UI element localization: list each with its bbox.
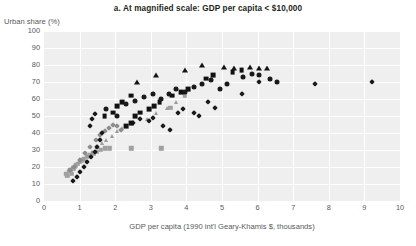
data-point-gray-triangles bbox=[174, 100, 178, 104]
data-point-black-squares bbox=[129, 120, 134, 125]
y-axis-title: Urban share (%) bbox=[4, 17, 60, 26]
gridline-vertical bbox=[80, 31, 81, 201]
data-point-gray-squares bbox=[65, 173, 69, 177]
x-tick-label: 3 bbox=[139, 204, 163, 211]
gridline-vertical bbox=[115, 31, 116, 201]
y-tick-label: 80 bbox=[0, 61, 40, 68]
data-point-gray-diamonds bbox=[118, 127, 124, 133]
data-point-black-squares bbox=[211, 73, 216, 78]
scatter-chart-figure: a. At magnified scale: GDP per capita < … bbox=[0, 0, 416, 246]
data-point-black-diamonds bbox=[205, 99, 211, 105]
chart-title: a. At magnified scale: GDP per capita < … bbox=[0, 4, 416, 13]
data-point-black-diamonds bbox=[160, 123, 166, 129]
data-point-black-squares bbox=[179, 90, 184, 95]
data-point-black-diamonds bbox=[137, 116, 143, 122]
data-point-gray-triangles bbox=[100, 141, 104, 145]
data-point-black-diamonds bbox=[84, 159, 90, 165]
y-tick-label: 30 bbox=[0, 146, 40, 153]
y-tick-label: 60 bbox=[0, 95, 40, 102]
gridline-vertical bbox=[186, 31, 187, 201]
gridline-horizontal bbox=[44, 201, 400, 202]
data-point-gray-squares bbox=[64, 172, 68, 176]
data-point-gray-triangles bbox=[165, 106, 169, 110]
y-axis-tick-labels: 0102030405060708090100 bbox=[0, 31, 40, 201]
x-tick-label: 7 bbox=[281, 204, 305, 211]
data-point-gray-diamonds bbox=[87, 144, 93, 150]
data-point-black-squares bbox=[129, 93, 134, 98]
y-tick-label: 90 bbox=[0, 44, 40, 51]
data-point-black-circles bbox=[123, 102, 128, 107]
data-point-black-diamonds bbox=[94, 144, 100, 150]
data-point-black-diamonds bbox=[88, 154, 94, 160]
data-point-black-squares bbox=[123, 124, 128, 129]
x-tick-label: 6 bbox=[246, 204, 270, 211]
gridline-vertical bbox=[329, 31, 330, 201]
data-point-gray-squares bbox=[85, 155, 89, 159]
data-point-gray-triangles bbox=[120, 126, 124, 130]
x-axis-tick-labels: 012345678910 bbox=[44, 204, 400, 216]
y-tick-label: 100 bbox=[0, 27, 40, 34]
plot-area bbox=[44, 31, 400, 201]
x-tick-label: 1 bbox=[68, 204, 92, 211]
data-point-black-circles bbox=[250, 71, 255, 76]
data-point-black-diamonds bbox=[87, 123, 93, 129]
data-point-gray-squares bbox=[91, 151, 95, 155]
x-tick-label: 5 bbox=[210, 204, 234, 211]
data-point-black-squares bbox=[204, 76, 209, 81]
data-point-gray-triangles bbox=[104, 138, 108, 142]
gridline-vertical bbox=[258, 31, 259, 201]
data-point-gray-squares bbox=[82, 156, 86, 160]
x-tick-label: 0 bbox=[32, 204, 56, 211]
data-point-black-diamonds bbox=[89, 116, 95, 122]
data-point-gray-squares bbox=[87, 153, 91, 157]
data-point-gray-triangles bbox=[145, 117, 149, 121]
data-point-gray-diamonds bbox=[93, 137, 99, 143]
data-point-gray-triangles bbox=[154, 111, 158, 115]
y-tick-label: 40 bbox=[0, 129, 40, 136]
data-point-black-diamonds bbox=[70, 178, 76, 184]
y-tick-label: 50 bbox=[0, 112, 40, 119]
data-point-gray-triangles bbox=[81, 157, 85, 161]
data-point-gray-triangles bbox=[110, 134, 114, 138]
data-point-black-circles bbox=[173, 86, 178, 91]
data-point-black-diamonds bbox=[191, 110, 197, 116]
gridline-vertical bbox=[364, 31, 365, 201]
data-point-black-diamonds bbox=[130, 120, 136, 126]
gridline-vertical bbox=[222, 31, 223, 201]
y-tick-label: 10 bbox=[0, 180, 40, 187]
gridline-vertical bbox=[293, 31, 294, 201]
data-point-gray-triangles bbox=[85, 153, 89, 157]
data-point-gray-squares bbox=[67, 170, 71, 174]
data-point-black-diamonds bbox=[175, 110, 181, 116]
data-point-black-squares bbox=[152, 103, 157, 108]
data-point-black-triangles bbox=[231, 66, 237, 71]
data-point-gray-diamonds bbox=[82, 151, 88, 157]
x-axis-title: GDP per capita (1990 int'l Geary-Khamis … bbox=[44, 222, 400, 231]
data-point-black-squares bbox=[157, 100, 162, 105]
data-point-black-squares bbox=[120, 100, 125, 105]
data-point-gray-squares bbox=[168, 105, 172, 109]
data-point-black-circles bbox=[268, 76, 273, 81]
x-tick-label: 2 bbox=[103, 204, 127, 211]
data-point-black-diamonds bbox=[97, 137, 103, 143]
data-point-gray-diamonds bbox=[67, 168, 73, 174]
data-point-gray-squares bbox=[68, 168, 72, 172]
data-point-black-circles bbox=[191, 85, 196, 90]
data-point-black-circles bbox=[104, 107, 109, 112]
data-point-black-squares bbox=[170, 93, 175, 98]
y-tick-label: 20 bbox=[0, 163, 40, 170]
data-point-gray-triangles bbox=[95, 145, 99, 149]
data-point-gray-squares bbox=[70, 172, 74, 176]
data-point-black-diamonds bbox=[239, 91, 245, 97]
data-point-gray-diamonds bbox=[106, 125, 112, 131]
gridline-vertical bbox=[151, 31, 152, 201]
data-point-black-triangles bbox=[153, 73, 159, 78]
data-point-black-circles bbox=[166, 91, 171, 96]
data-point-black-squares bbox=[138, 110, 143, 115]
data-point-black-circles bbox=[241, 74, 246, 79]
data-point-black-diamonds bbox=[212, 105, 218, 111]
data-point-black-squares bbox=[239, 68, 244, 73]
data-point-black-diamonds bbox=[167, 127, 173, 133]
data-point-black-triangles bbox=[264, 66, 270, 71]
y-tick-label: 70 bbox=[0, 78, 40, 85]
